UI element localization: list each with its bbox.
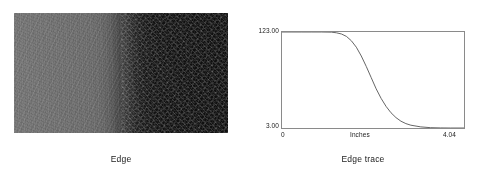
- plot-area: [281, 31, 465, 129]
- x-axis-title: Inches: [350, 131, 370, 138]
- y-axis-tick-max: 123.00: [259, 27, 279, 34]
- y-axis-tick-min: 3.00: [266, 122, 279, 129]
- x-axis-tick-min: 0: [281, 131, 285, 138]
- x-axis-tick-max: 4.04: [443, 131, 456, 138]
- edge-trace-caption: Edge trace: [242, 154, 484, 164]
- edge-trace-panel: 123.00 3.00 0 Inches 4.04 Edge trace: [242, 0, 484, 181]
- edge-trace-curve: [282, 32, 464, 128]
- figure-root: Edge 123.00 3.00 0 Inches 4.04 Edge trac…: [0, 0, 484, 181]
- edge-image-noise-dark-region: [121, 13, 228, 133]
- edge-image-panel: Edge: [0, 0, 242, 181]
- edge-image-caption: Edge: [0, 154, 242, 164]
- edge-image: [14, 13, 228, 133]
